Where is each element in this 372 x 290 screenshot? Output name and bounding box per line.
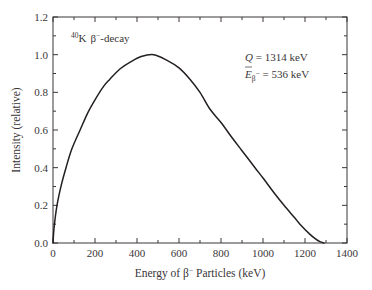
x-tick-labels: 0200400600800100012001400 — [50, 247, 358, 259]
x-tick-label: 0 — [50, 247, 56, 259]
x-tick-label: 1200 — [294, 247, 317, 259]
mean-energy-annotation: Eβ− = 536 keV — [244, 67, 309, 83]
x-tick-label: 1400 — [336, 247, 359, 259]
y-tick-labels: 0.00.20.40.60.81.01.2 — [34, 11, 48, 249]
y-tick-label: 1.2 — [34, 11, 48, 23]
q-value-annotation: Q = 1314 keV — [245, 51, 308, 63]
x-tick-label: 200 — [87, 247, 104, 259]
x-tick-label: 800 — [213, 247, 230, 259]
x-tick-label: 400 — [129, 247, 146, 259]
y-tick-label: 0.8 — [34, 86, 48, 98]
x-axis-title: Energy of β− Particles (keV) — [135, 266, 266, 280]
spectrum-curve — [53, 55, 324, 243]
y-tick-label: 0.0 — [34, 237, 48, 249]
x-tick-label: 600 — [171, 247, 188, 259]
y-tick-label: 0.2 — [34, 199, 48, 211]
beta-spectrum-chart: 0200400600800100012001400 0.00.20.40.60.… — [0, 0, 372, 290]
x-tick-label: 1000 — [252, 247, 275, 259]
y-axis-title: Intensity (relative) — [10, 87, 23, 172]
isotope-annotation: 40Kβ−-decay — [71, 31, 130, 44]
y-tick-label: 1.0 — [34, 49, 48, 61]
y-tick-label: 0.4 — [34, 162, 48, 174]
y-tick-label: 0.6 — [34, 124, 48, 136]
svg-text:Eβ− = 536 keV: Eβ− = 536 keV — [244, 68, 309, 83]
